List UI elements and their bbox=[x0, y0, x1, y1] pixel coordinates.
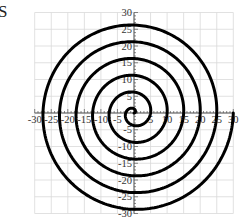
x-tick-label: -10 bbox=[94, 114, 108, 125]
y-tick-label: 30 bbox=[122, 7, 133, 18]
x-tick-label: -20 bbox=[61, 114, 75, 125]
x-tick-label: -5 bbox=[113, 114, 122, 125]
x-tick-label: -15 bbox=[77, 114, 91, 125]
x-tick-label: -30 bbox=[28, 114, 42, 125]
x-tick-label: -25 bbox=[44, 114, 58, 125]
spiral-chart: -30-25-20-15-10-551015202530 30252015105… bbox=[0, 0, 244, 224]
